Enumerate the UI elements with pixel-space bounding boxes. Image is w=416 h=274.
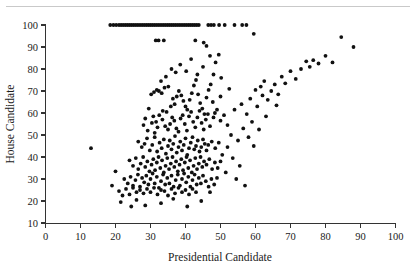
data-point — [194, 78, 198, 82]
data-point — [240, 23, 244, 27]
data-point — [168, 122, 172, 126]
data-point — [229, 133, 233, 137]
data-point — [241, 126, 245, 130]
data-point — [170, 174, 174, 178]
data-point — [141, 155, 145, 159]
data-point — [210, 140, 214, 144]
data-point — [153, 135, 157, 139]
data-point — [172, 165, 176, 169]
data-point — [179, 117, 183, 121]
data-point — [143, 165, 147, 169]
data-point — [196, 73, 200, 77]
data-point — [215, 176, 219, 180]
data-point — [212, 73, 216, 77]
x-tick-label: 90 — [355, 231, 366, 242]
data-point — [185, 129, 189, 133]
data-point — [189, 110, 193, 114]
data-point — [128, 193, 132, 197]
x-tick-label: 60 — [250, 231, 261, 242]
data-point — [114, 169, 118, 173]
x-axis-group: 0102030405060708090100 — [43, 224, 404, 243]
data-point — [177, 130, 181, 134]
data-point — [304, 59, 308, 63]
data-point — [194, 190, 198, 194]
data-point — [152, 186, 156, 190]
data-point — [202, 160, 206, 164]
data-point — [136, 140, 140, 144]
data-point — [119, 200, 123, 204]
data-point — [177, 89, 181, 93]
data-point — [170, 67, 174, 71]
data-point — [174, 160, 178, 164]
data-point — [165, 176, 169, 180]
data-point — [177, 145, 181, 149]
data-point — [234, 177, 238, 181]
data-point — [236, 139, 240, 143]
data-point — [174, 70, 178, 74]
data-point — [164, 75, 168, 79]
data-point — [171, 197, 175, 201]
data-point — [199, 199, 203, 203]
data-point — [257, 128, 261, 132]
data-point — [201, 138, 205, 142]
data-point — [117, 189, 121, 193]
data-point — [180, 190, 184, 194]
data-point — [160, 91, 164, 95]
data-point — [199, 182, 203, 186]
data-point — [164, 152, 168, 156]
data-point — [245, 112, 249, 116]
data-point — [219, 119, 223, 123]
y-tick-label: 30 — [28, 174, 39, 185]
data-point — [131, 186, 135, 190]
data-point — [185, 108, 189, 112]
data-point — [183, 161, 187, 165]
data-point — [170, 147, 174, 151]
data-point — [140, 145, 144, 149]
data-point — [122, 177, 126, 181]
data-point — [191, 120, 195, 124]
data-point — [153, 168, 157, 172]
data-point — [187, 114, 191, 118]
data-point — [233, 108, 237, 112]
data-point — [202, 128, 206, 132]
data-point — [138, 185, 142, 189]
data-point — [178, 163, 182, 167]
data-point — [217, 53, 221, 57]
data-point — [154, 120, 158, 124]
data-point — [177, 186, 181, 190]
data-point — [226, 145, 230, 149]
data-point — [184, 69, 188, 73]
data-point — [211, 100, 215, 104]
data-point — [193, 39, 197, 43]
data-point — [180, 149, 184, 153]
data-point — [159, 201, 163, 205]
data-point — [151, 157, 155, 161]
data-point — [163, 183, 167, 187]
data-point — [203, 142, 207, 146]
data-point — [166, 194, 170, 198]
data-point — [192, 147, 196, 151]
data-point — [227, 87, 231, 91]
y-tick-labels: 102030405060708090100 — [22, 20, 38, 229]
data-point — [176, 169, 180, 173]
data-point — [174, 178, 178, 182]
data-point — [136, 167, 140, 171]
data-point — [121, 194, 125, 198]
data-point — [204, 118, 208, 122]
data-point — [248, 97, 252, 101]
data-point — [193, 125, 197, 129]
data-point — [148, 149, 152, 153]
data-point — [195, 167, 199, 171]
data-point — [213, 111, 217, 115]
x-tick-label: 100 — [388, 231, 404, 242]
y-tick-label: 60 — [28, 108, 39, 119]
data-point — [178, 63, 182, 67]
data-point — [179, 157, 183, 161]
data-point — [206, 112, 210, 116]
data-point — [194, 144, 198, 148]
data-point — [131, 164, 135, 168]
data-point — [219, 76, 223, 80]
data-point — [167, 167, 171, 171]
data-point — [226, 123, 230, 127]
data-point — [173, 102, 177, 106]
